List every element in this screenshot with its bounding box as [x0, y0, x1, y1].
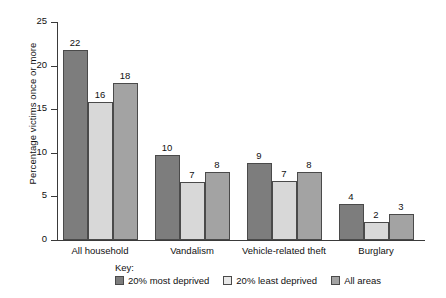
legend-item: 20% most deprived [115, 275, 209, 286]
bar [389, 214, 414, 240]
y-axis-tick-label: 20 [36, 59, 47, 70]
bar [247, 163, 272, 240]
bar-value-label: 7 [180, 169, 205, 180]
legend-items: 20% most deprived20% least deprivedAll a… [115, 275, 381, 286]
bar-value-label: 16 [88, 89, 113, 100]
legend-label: 20% least deprived [236, 275, 317, 286]
legend-color-swatch [115, 276, 124, 285]
bar [297, 172, 322, 240]
bar-value-label: 2 [364, 209, 389, 220]
y-axis-tick-label: 15 [36, 102, 47, 113]
x-axis-category-label: Burglary [316, 245, 436, 256]
bar-value-label: 3 [389, 201, 414, 212]
legend-label: All areas [344, 275, 381, 286]
plot-area: 2216181078978423 [57, 22, 425, 240]
legend-item: All areas [331, 275, 381, 286]
legend-label: 20% most deprived [128, 275, 209, 286]
bar-chart: Percentage victims once or more 05101520… [0, 0, 446, 298]
bar-value-label: 18 [113, 70, 138, 81]
bar [180, 182, 205, 240]
y-axis-tick-label: 0 [42, 233, 47, 244]
legend-color-swatch [223, 276, 232, 285]
y-axis-tick-label: 25 [36, 15, 47, 26]
y-axis-tick-label: 10 [36, 146, 47, 157]
x-axis-line [57, 240, 425, 241]
bar-value-label: 10 [155, 142, 180, 153]
bar [155, 155, 180, 240]
legend-title: Key: [115, 262, 134, 273]
bar-value-label: 8 [205, 159, 230, 170]
y-axis-tick-mark [51, 240, 57, 241]
bar [272, 181, 297, 240]
bar-value-label: 4 [339, 191, 364, 202]
bar [205, 172, 230, 240]
bar-value-label: 8 [297, 159, 322, 170]
y-axis-tick-label: 5 [42, 189, 47, 200]
bar [88, 102, 113, 240]
bar-value-label: 7 [272, 168, 297, 179]
bar [364, 222, 389, 240]
y-axis-title: Percentage victims once or more [27, 4, 38, 224]
bar [113, 83, 138, 240]
bar-value-label: 9 [247, 150, 272, 161]
bar-value-label: 22 [63, 37, 88, 48]
bar [339, 204, 364, 240]
y-axis-tick: 0 [51, 240, 57, 241]
legend-item: 20% least deprived [223, 275, 317, 286]
legend-color-swatch [331, 276, 340, 285]
bar [63, 50, 88, 240]
